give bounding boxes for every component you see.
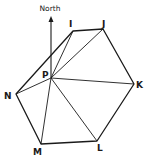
segment-p-m <box>41 78 51 144</box>
vertex-label-n: N <box>4 91 12 101</box>
hexagon-outline <box>16 29 134 144</box>
segment-p-n <box>16 78 51 94</box>
spokes-from-p <box>16 29 134 144</box>
hexagon-diagram: North I J K L M N P <box>0 0 151 158</box>
vertex-label-k: K <box>136 80 144 90</box>
vertex-label-p: P <box>42 70 49 80</box>
segment-p-l <box>51 78 97 141</box>
vertex-label-m: M <box>33 147 42 157</box>
north-arrow: North <box>40 4 61 78</box>
vertex-labels: I J K L M N P <box>4 19 144 157</box>
north-arrowhead-icon <box>49 16 54 22</box>
segment-p-i <box>51 31 73 78</box>
north-label: North <box>40 4 61 13</box>
segment-p-j <box>51 29 103 78</box>
segment-p-k <box>51 78 134 84</box>
vertex-label-j: J <box>101 19 105 29</box>
vertex-label-l: L <box>97 143 103 153</box>
vertex-label-i: I <box>69 19 72 29</box>
